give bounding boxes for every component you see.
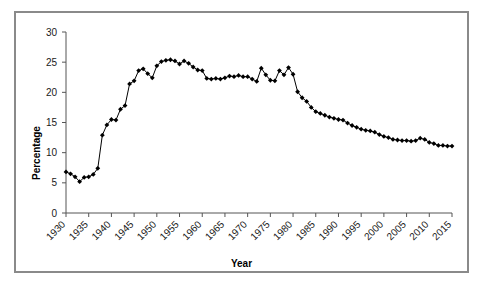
- data-point: [100, 133, 105, 138]
- x-tick-label: 2010: [407, 218, 431, 242]
- data-point: [209, 77, 214, 82]
- x-tick-label: 1935: [67, 218, 91, 242]
- data-point: [232, 74, 237, 79]
- data-point: [272, 78, 277, 83]
- data-point: [322, 113, 327, 118]
- data-point: [418, 136, 423, 141]
- x-tick-label: 1930: [44, 218, 68, 242]
- x-tick-label: 2015: [430, 218, 454, 242]
- x-tick-label: 2005: [384, 218, 408, 242]
- line-chart-svg: 051015202530 193019351940194519501955196…: [0, 0, 483, 290]
- data-point: [436, 143, 441, 148]
- data-point: [236, 73, 241, 78]
- data-point: [327, 115, 332, 120]
- data-point: [250, 77, 255, 82]
- data-point: [114, 118, 119, 123]
- chart-figure: Percentage Year 051015202530 19301935194…: [0, 0, 483, 290]
- x-tick-labels: 1930193519401945195019551960196519701975…: [44, 218, 454, 242]
- data-point: [372, 130, 377, 135]
- data-point: [441, 143, 446, 148]
- x-tick-label: 1960: [180, 218, 204, 242]
- data-point: [213, 76, 218, 81]
- data-point: [64, 170, 69, 175]
- data-line: [66, 60, 452, 182]
- data-point: [204, 76, 209, 81]
- data-point: [431, 141, 436, 146]
- data-point: [200, 68, 205, 73]
- data-point: [377, 132, 382, 137]
- x-tick-label: 1955: [157, 218, 181, 242]
- data-point: [218, 77, 223, 82]
- data-point: [332, 116, 337, 121]
- x-tick-label: 1945: [112, 218, 136, 242]
- x-tick-label: 1985: [294, 218, 318, 242]
- data-point: [164, 58, 169, 63]
- data-point: [363, 128, 368, 133]
- x-tick-label: 1975: [248, 218, 272, 242]
- data-point: [386, 135, 391, 140]
- x-tick-label: 1940: [89, 218, 113, 242]
- data-point: [409, 139, 414, 144]
- data-point: [395, 138, 400, 143]
- data-point: [381, 134, 386, 139]
- data-point: [445, 144, 450, 149]
- data-point: [245, 74, 250, 79]
- data-point: [241, 74, 246, 79]
- data-point: [227, 74, 232, 79]
- y-tick-label: 15: [46, 117, 58, 128]
- x-tick-label: 1995: [339, 218, 363, 242]
- y-tick-label: 30: [46, 27, 58, 38]
- x-tick-marks: [66, 213, 452, 217]
- y-tick-marks: [62, 32, 66, 213]
- data-point: [318, 111, 323, 116]
- data-point: [86, 174, 91, 179]
- data-point: [400, 138, 405, 143]
- y-tick-label: 25: [46, 57, 58, 68]
- x-tick-label: 1950: [135, 218, 159, 242]
- y-tick-label: 0: [51, 208, 57, 219]
- data-point: [391, 137, 396, 142]
- data-point: [368, 129, 373, 134]
- data-point: [359, 127, 364, 132]
- y-tick-label: 20: [46, 87, 58, 98]
- data-point: [136, 68, 141, 73]
- data-point: [413, 138, 418, 143]
- x-tick-label: 2000: [362, 218, 386, 242]
- data-point: [223, 75, 228, 80]
- data-point: [254, 79, 259, 84]
- data-point: [350, 123, 355, 128]
- y-tick-label: 5: [51, 177, 57, 188]
- plot-area: 051015202530 193019351940194519501955196…: [0, 0, 483, 290]
- x-tick-label: 1980: [271, 218, 295, 242]
- y-tick-label: 10: [46, 147, 58, 158]
- x-tick-label: 1970: [226, 218, 250, 242]
- data-point: [168, 57, 173, 62]
- y-tick-labels: 051015202530: [46, 27, 58, 219]
- data-point: [450, 144, 455, 149]
- x-tick-label: 1965: [203, 218, 227, 242]
- data-point: [354, 125, 359, 130]
- data-point: [404, 138, 409, 143]
- data-point: [336, 117, 341, 122]
- x-tick-label: 1990: [316, 218, 340, 242]
